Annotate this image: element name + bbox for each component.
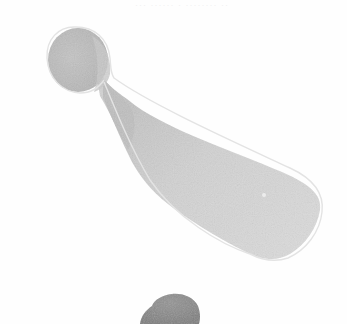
artwork-svg xyxy=(0,0,347,324)
pin-shape xyxy=(48,28,320,259)
pin-body-wash xyxy=(103,78,320,259)
paper-speck xyxy=(262,193,266,197)
bottom-blot xyxy=(140,294,200,324)
watercolor-artwork: ··· ······ · ········ ·· xyxy=(0,0,347,324)
